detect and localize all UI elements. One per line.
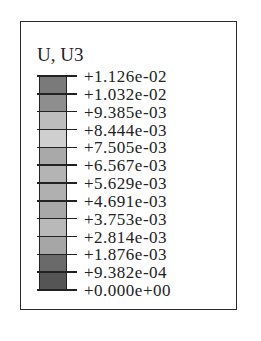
- tick-label: +1.126e-02: [84, 68, 167, 85]
- color-bin: [40, 94, 66, 112]
- tick-label: +5.629e-03: [84, 175, 167, 192]
- tick-mark: [37, 93, 77, 95]
- color-bin: [40, 219, 66, 237]
- tick-mark: [37, 147, 77, 149]
- tick-label: +3.753e-03: [84, 211, 167, 228]
- tick-mark: [37, 271, 77, 273]
- color-bin: [40, 130, 66, 148]
- tick-label: +0.000e+00: [84, 282, 171, 299]
- color-bin: [40, 272, 66, 290]
- tick-label: +2.814e-03: [84, 229, 167, 246]
- color-bin: [40, 165, 66, 183]
- color-bin: [40, 254, 66, 272]
- tick-label: +9.385e-03: [84, 104, 167, 121]
- tick-label: +1.032e-02: [84, 86, 167, 103]
- tick-label: +9.382e-04: [84, 264, 167, 281]
- tick-mark: [37, 200, 77, 202]
- tick-mark: [37, 182, 77, 184]
- tick-label: +7.505e-03: [84, 139, 167, 156]
- tick-mark: [37, 129, 77, 131]
- tick-label: +8.444e-03: [84, 122, 167, 139]
- tick-mark: [37, 111, 77, 113]
- color-bin: [40, 76, 66, 94]
- color-bin: [40, 183, 66, 201]
- tick-mark: [37, 254, 77, 256]
- tick-label: +4.691e-03: [84, 193, 167, 210]
- tick-mark: [37, 236, 77, 238]
- tick-mark: [37, 164, 77, 166]
- color-bin: [40, 147, 66, 165]
- legend-title: U, U3: [37, 44, 83, 66]
- tick-mark: [37, 218, 77, 220]
- color-bin: [40, 201, 66, 219]
- color-bin: [40, 237, 66, 255]
- tick-label: +6.567e-03: [84, 157, 167, 174]
- color-bin: [40, 112, 66, 130]
- tick-mark: [37, 289, 77, 291]
- tick-mark: [37, 75, 77, 77]
- tick-label: +1.876e-03: [84, 246, 167, 263]
